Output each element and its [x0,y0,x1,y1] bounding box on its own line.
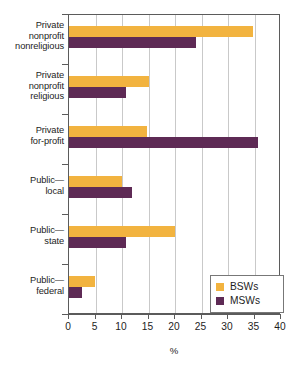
bar-bsw [69,276,95,287]
x-axis-tick [174,314,175,319]
x-axis-tick [148,314,149,319]
x-axis-tick [121,314,122,319]
x-axis-tick-label: 40 [265,321,295,332]
legend-swatch-icon [216,283,224,291]
bar-bsw [69,226,175,237]
category-label: Public—federal [0,275,64,296]
bar-msw [69,237,126,248]
category-label-line: Private [0,125,64,136]
bar-msw [69,37,196,48]
chart-legend[interactable]: BSWsMSWs [210,275,284,313]
category-label: Privatefor-profit [0,125,64,146]
legend-item[interactable]: BSWs [216,280,278,294]
category-label-line: nonprofit [0,81,64,92]
category-label-line: nonprofit [0,31,64,42]
category-label-line: Public— [0,175,64,186]
category-label: Privatenonprofitreligious [0,70,64,102]
x-axis-tick [68,314,69,319]
bar-bsw [69,126,147,137]
bar-bsw [69,176,122,187]
bar-chart: PrivatenonprofitnonreligiousPrivatenonpr… [0,0,300,371]
x-axis-tick [227,314,228,319]
category-label-line: Private [0,70,64,81]
x-axis-tick-label: 10 [106,321,136,332]
x-axis-tick [201,314,202,319]
bar-msw [69,187,132,198]
x-axis-tick-label: 35 [239,321,269,332]
x-axis-tick-label: 15 [133,321,163,332]
category-label-line: religious [0,91,64,102]
category-label-line: federal [0,286,64,297]
bar-bsw [69,26,253,37]
category-label-line: nonreligious [0,41,64,52]
bar-msw [69,137,258,148]
x-axis-tick-label: 0 [53,321,83,332]
category-label-line: Public— [0,275,64,286]
x-axis-tick-label: 20 [159,321,189,332]
legend-label: MSWs [230,296,260,306]
category-label-line: state [0,236,64,247]
legend-label: BSWs [230,282,258,292]
bars-layer [69,15,279,314]
plot-area [68,14,280,314]
category-label: Privatenonprofitnonreligious [0,20,64,52]
legend-swatch-icon [216,297,224,305]
legend-item[interactable]: MSWs [216,294,278,308]
category-label-line: local [0,186,64,197]
category-label-line: for-profit [0,136,64,147]
category-label-line: Public— [0,225,64,236]
category-label: Public—state [0,225,64,246]
x-axis-title: % [68,345,280,356]
x-axis-tick [280,314,281,319]
bar-msw [69,87,126,98]
bar-bsw [69,76,149,87]
category-label-line: Private [0,20,64,31]
x-axis-tick [254,314,255,319]
bar-msw [69,287,82,298]
category-label: Public—local [0,175,64,196]
x-axis-tick-label: 30 [212,321,242,332]
x-axis-tick-label: 5 [80,321,110,332]
category-axis-labels: PrivatenonprofitnonreligiousPrivatenonpr… [0,14,64,314]
x-axis-tick-label: 25 [186,321,216,332]
x-axis-tick [95,314,96,319]
